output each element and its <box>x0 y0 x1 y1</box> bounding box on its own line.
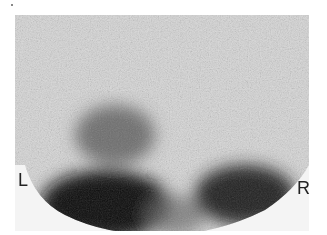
scan-image <box>15 15 309 231</box>
scan-graphic <box>15 15 309 231</box>
right-side-label: R <box>297 178 310 199</box>
speck <box>11 4 13 6</box>
left-side-label: L <box>18 170 28 191</box>
